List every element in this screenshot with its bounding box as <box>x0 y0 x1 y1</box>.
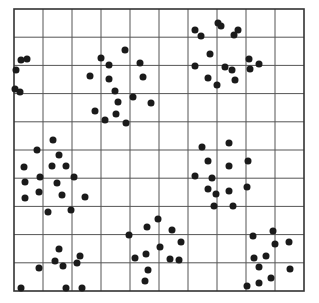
data-point <box>230 203 237 210</box>
data-point <box>211 203 218 210</box>
data-point <box>145 267 152 274</box>
data-point <box>137 60 144 67</box>
data-point <box>244 184 251 191</box>
data-point <box>60 263 67 270</box>
data-point <box>229 67 236 74</box>
data-point <box>106 76 113 83</box>
data-point <box>218 23 225 30</box>
data-point <box>192 173 199 180</box>
data-point <box>213 191 220 198</box>
data-point <box>286 239 293 246</box>
data-point <box>142 278 149 285</box>
data-point <box>287 266 294 273</box>
data-point <box>63 163 70 170</box>
data-point <box>178 239 185 246</box>
data-point <box>92 108 99 115</box>
data-point <box>205 75 212 82</box>
data-point <box>207 51 214 58</box>
data-point <box>226 188 233 195</box>
data-point <box>21 164 28 171</box>
data-point <box>52 258 59 265</box>
data-point <box>112 88 119 95</box>
data-point <box>36 189 43 196</box>
data-point <box>79 285 86 292</box>
data-point <box>140 74 147 81</box>
data-point <box>251 255 258 262</box>
data-point <box>68 207 75 214</box>
data-point <box>247 66 254 73</box>
data-point <box>113 111 120 118</box>
data-point <box>56 152 63 159</box>
data-point <box>56 246 63 253</box>
data-point <box>130 94 137 101</box>
data-point <box>54 180 61 187</box>
data-point <box>226 140 233 147</box>
data-point <box>214 82 221 89</box>
data-point <box>270 228 277 235</box>
data-point <box>198 33 205 40</box>
data-point <box>50 137 57 144</box>
data-point <box>74 260 81 267</box>
data-point <box>36 265 43 272</box>
data-point <box>148 100 155 107</box>
data-point <box>82 194 89 201</box>
data-point <box>256 61 263 68</box>
data-point <box>37 174 44 181</box>
data-point <box>22 195 29 202</box>
data-point <box>205 158 212 165</box>
data-point <box>126 232 133 239</box>
data-point <box>209 175 216 182</box>
data-point <box>169 227 176 234</box>
data-point <box>132 255 139 262</box>
data-point <box>245 158 252 165</box>
data-point <box>143 251 150 258</box>
data-point <box>13 67 20 74</box>
data-point <box>199 144 206 151</box>
scatter-plot <box>0 0 319 303</box>
data-point <box>205 186 212 193</box>
data-point <box>22 179 29 186</box>
data-point <box>246 56 253 63</box>
data-point <box>24 56 31 63</box>
data-point <box>122 47 129 54</box>
data-point <box>192 63 199 70</box>
data-point <box>226 163 233 170</box>
data-point <box>106 62 113 69</box>
data-point <box>87 73 94 80</box>
data-point <box>244 283 251 290</box>
data-point <box>71 174 78 181</box>
data-point <box>45 209 52 216</box>
data-point <box>17 89 24 96</box>
data-point <box>77 253 84 260</box>
data-point <box>18 285 25 292</box>
data-point <box>176 257 183 264</box>
data-point <box>59 192 66 199</box>
data-point <box>63 285 70 292</box>
data-point <box>102 117 109 124</box>
data-point <box>222 64 229 71</box>
data-point <box>34 147 41 154</box>
data-point <box>250 233 257 240</box>
data-point <box>18 57 25 64</box>
data-point <box>231 32 238 39</box>
data-point <box>232 77 239 84</box>
data-point <box>49 163 56 170</box>
data-point <box>155 216 162 223</box>
data-point <box>144 224 151 231</box>
data-point <box>123 120 130 127</box>
data-point <box>268 275 275 282</box>
data-point <box>98 55 105 62</box>
data-point <box>256 264 263 271</box>
data-point <box>192 27 199 34</box>
data-point <box>256 280 263 287</box>
data-point <box>157 244 164 251</box>
data-point <box>115 99 122 106</box>
data-point <box>167 256 174 263</box>
data-point <box>263 253 270 260</box>
data-point <box>272 241 279 248</box>
